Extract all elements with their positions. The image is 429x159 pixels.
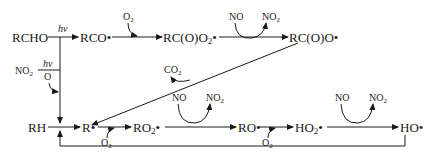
species-rcho: RCHO — [12, 30, 48, 45]
curved-arrow-o-in — [49, 83, 58, 92]
curved-arrow-no-to-no2-bottom-2 — [341, 104, 373, 123]
curved-arrow-o2-in — [128, 23, 137, 36]
label-co2: CO2 — [164, 64, 182, 77]
arrow-rcoo-to-r — [92, 43, 298, 125]
reaction-diagram: RCHO hν RCO• O2 RC(O)O2• NO NO2 RC(O)O• … — [0, 0, 429, 159]
species-ro: RO• — [238, 120, 261, 135]
species-rcoo2: RC(O)O2• — [163, 30, 217, 46]
label-o2-bottom-1: O2 — [101, 137, 112, 150]
curved-arrow-no-to-no2-bottom-1 — [178, 104, 210, 123]
species-r: R• — [82, 120, 95, 135]
curved-arrow-no-to-no2-top — [235, 23, 266, 38]
curved-arrow-co2-out — [171, 77, 190, 81]
label-no2-top: NO2 — [262, 11, 280, 24]
species-rh: RH — [28, 120, 46, 135]
species-rcoo: RC(O)O• — [289, 30, 338, 45]
label-o-side: O — [44, 71, 51, 82]
species-rco: RCO• — [80, 30, 111, 45]
label-no2-bottom-1: NO2 — [206, 92, 224, 105]
species-ro2: RO2• — [133, 120, 160, 136]
species-ho2: HO2• — [295, 120, 323, 136]
label-o2-top: O2 — [123, 11, 134, 24]
label-no2-side: NO2 — [15, 65, 33, 78]
label-hv-2: hν — [43, 58, 53, 69]
label-no-bottom-1: NO — [172, 92, 186, 103]
feedback-loop-arrow — [60, 131, 405, 146]
species-ho: HO• — [400, 120, 423, 135]
label-no-bottom-2: NO — [335, 92, 349, 103]
label-hv-1: hν — [58, 23, 68, 34]
label-o2-bottom-2: O2 — [262, 137, 273, 150]
label-no-top: NO — [229, 11, 243, 22]
label-no2-bottom-2: NO2 — [369, 92, 387, 105]
